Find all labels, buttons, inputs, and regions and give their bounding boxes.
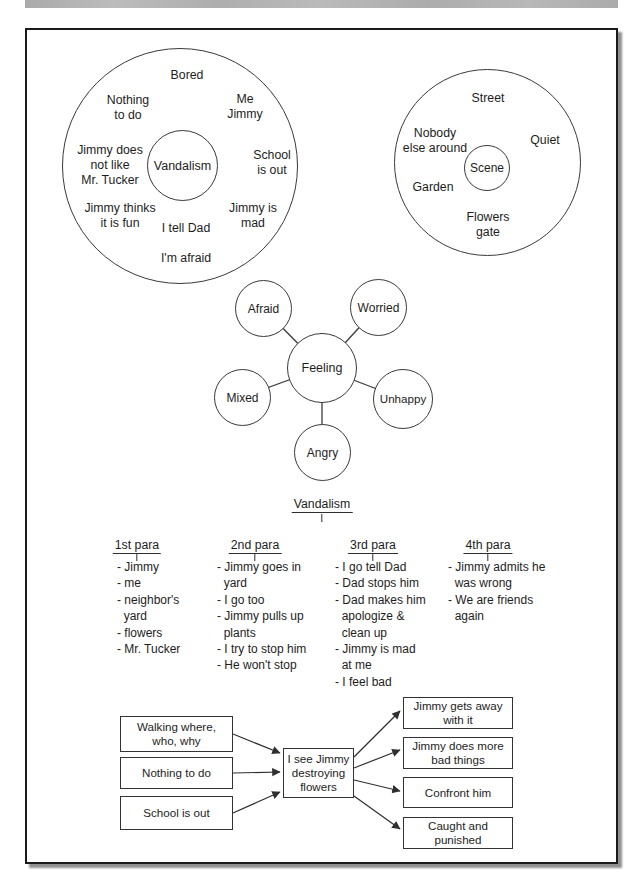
idea-web-label-school: School is out (253, 148, 291, 178)
idea-web-label-nothing: Nothing to do (107, 93, 149, 123)
feeling-satellite-unhappy: Unhappy (373, 369, 433, 429)
scene-web-label-street: Street (472, 91, 505, 106)
flow-event-box: I see Jimmy destroying flowers (283, 748, 354, 798)
idea-web-label-tucker: Jimmy does not like Mr. Tucker (77, 143, 143, 188)
idea-web-center-label: Vandalism (154, 159, 211, 173)
scene-web-label-quiet: Quiet (530, 133, 559, 148)
flow-outcome-box-more-bad: Jimmy does more bad things (403, 737, 513, 769)
outline-items-4th-para: - Jimmy admits he was wrong - We are fri… (448, 559, 545, 625)
feeling-unhappy-label: Unhappy (380, 392, 426, 406)
outline-items-3rd-para: - I go tell Dad - Dad stops him - Dad ma… (335, 559, 426, 690)
scene-web-center-label: Scene (470, 161, 504, 175)
outline-header-1st-para: 1st para (113, 538, 161, 554)
scene-web-label-nobody: Nobody else around (403, 126, 467, 156)
scan-artifact-bar-top (25, 0, 618, 8)
flow-outcome-box-caught: Caught and punished (403, 817, 513, 849)
idea-web-label-afraid: I'm afraid (161, 251, 211, 266)
feeling-center-circle: Feeling (287, 333, 357, 403)
feeling-center-label: Feeling (302, 361, 343, 375)
scene-web-label-flowers: Flowers gate (466, 210, 509, 240)
flow-cause-box-school: School is out (120, 796, 233, 830)
feeling-satellite-afraid: Afraid (235, 280, 292, 337)
feeling-mixed-label: Mixed (226, 391, 258, 405)
outline-items-2nd-para: - Jimmy goes in yard - I go too - Jimmy … (217, 559, 306, 674)
scene-web-label-garden: Garden (412, 180, 453, 195)
scene-web-center-circle: Scene (464, 145, 510, 191)
flow-cause-box-walking: Walking where, who, why (120, 716, 233, 752)
idea-web-label-me: Me Jimmy (227, 92, 263, 122)
feeling-worried-label: Worried (358, 301, 400, 315)
idea-web-label-fun: Jimmy thinks it is fun (84, 201, 155, 231)
feeling-satellite-angry: Angry (294, 424, 351, 481)
idea-web-label-bored: Bored (171, 68, 204, 83)
flow-outcome-box-confront: Confront him (403, 777, 513, 808)
flow-outcome-box-gets-away: Jimmy gets away with it (403, 697, 513, 729)
scanned-page: Vandalism Bored Nothing to do Me Jimmy J… (0, 0, 641, 884)
outline-header-4th-para: 4th para (463, 538, 512, 554)
feeling-angry-label: Angry (307, 446, 338, 460)
feeling-satellite-mixed: Mixed (214, 369, 271, 426)
outline-title: Vandalism (292, 497, 353, 513)
idea-web-center-circle: Vandalism (147, 130, 218, 201)
feeling-satellite-worried: Worried (350, 279, 407, 336)
flow-cause-box-nothing: Nothing to do (120, 757, 233, 789)
feeling-afraid-label: Afraid (248, 302, 279, 316)
outline-header-3rd-para: 3rd para (348, 538, 398, 554)
outline-title-tick (321, 514, 322, 522)
idea-web-label-mad: Jimmy is mad (229, 201, 277, 231)
outline-header-2nd-para: 2nd para (229, 538, 282, 554)
outline-items-1st-para: - Jimmy - me - neighbor's yard - flowers… (117, 559, 180, 657)
idea-web-label-telldad: I tell Dad (162, 221, 211, 236)
